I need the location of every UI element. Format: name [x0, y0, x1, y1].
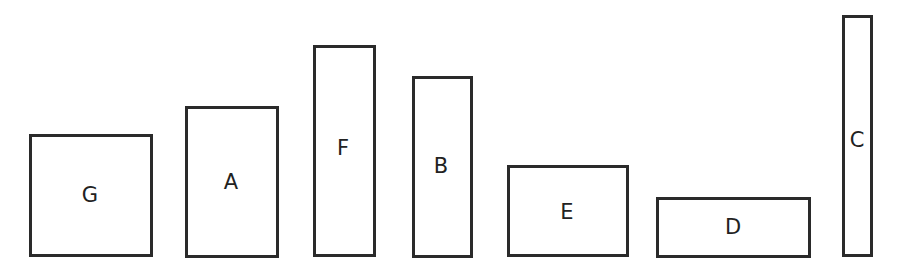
rectangle-f-label: F [337, 138, 349, 159]
rectangle-g-label: G [82, 185, 98, 206]
rectangle-e-label: E [560, 202, 573, 223]
rectangle-d-label: D [725, 217, 741, 238]
diagram-canvas: G A F B E D C [0, 0, 898, 277]
rectangle-a-label: A [224, 172, 238, 193]
rectangle-b-label: B [434, 156, 448, 177]
rectangle-c-label: C [850, 130, 865, 151]
